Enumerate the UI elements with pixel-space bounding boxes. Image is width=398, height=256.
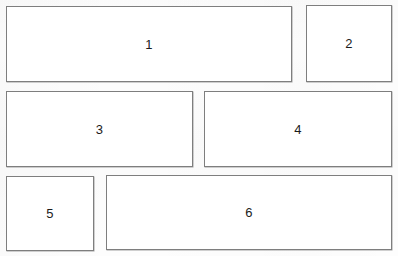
panel-1[interactable]: 1 [6,6,292,82]
panel-label-4: 4 [294,123,301,136]
panel-2[interactable]: 2 [306,5,392,82]
panel-label-1: 1 [145,38,152,51]
panel-label-6: 6 [245,206,252,219]
diagram-canvas: 1 2 3 4 5 6 [0,0,398,256]
panel-3[interactable]: 3 [6,91,193,167]
panel-6[interactable]: 6 [106,175,392,250]
panel-4[interactable]: 4 [204,91,392,167]
panel-label-3: 3 [96,123,103,136]
panel-5[interactable]: 5 [6,176,94,251]
panel-label-2: 2 [345,37,352,50]
panel-label-5: 5 [46,207,53,220]
